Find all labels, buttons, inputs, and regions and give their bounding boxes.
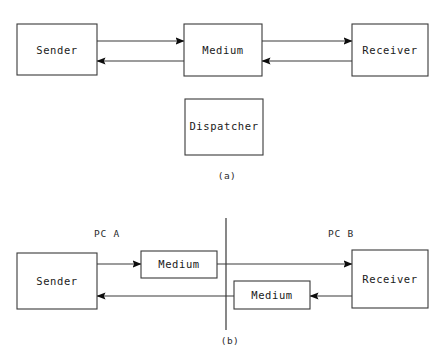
panel-a: Sender Medium Receiver Dispatcher (a) [17,24,428,181]
figure-canvas: Sender Medium Receiver Dispatcher (a) [0,0,447,355]
panel-b-connections [97,264,352,296]
box-medium-top-b: Medium [141,251,217,278]
panel-b: Sender Medium Medium Receiver PC A PC B … [17,218,428,346]
box-label: Dispatcher [189,120,258,132]
box-label: Medium [158,258,200,270]
caption-panel-b: (b) [221,335,240,346]
box-label: Receiver [362,273,417,285]
box-receiver-a: Receiver [352,24,428,76]
box-label: Sender [36,44,78,56]
box-label: Medium [251,289,293,301]
box-medium-a: Medium [184,24,262,76]
box-label: Medium [202,44,244,56]
caption-panel-a: (a) [218,170,237,181]
box-label: Sender [36,275,78,287]
label-pc-b: PC B [328,228,354,239]
diagram-root: Sender Medium Receiver Dispatcher (a) [0,0,447,355]
box-dispatcher-a: Dispatcher [185,99,263,155]
box-medium-bottom-b: Medium [234,281,310,309]
box-label: Receiver [362,44,417,56]
box-receiver-b: Receiver [352,250,428,308]
label-pc-a: PC A [94,228,120,239]
box-sender-b: Sender [17,253,97,309]
box-sender-a: Sender [17,24,97,75]
